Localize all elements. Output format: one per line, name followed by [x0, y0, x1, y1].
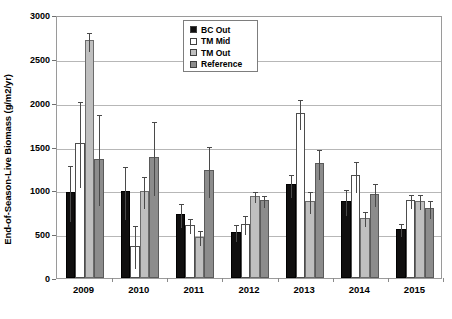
error-bar — [154, 122, 155, 196]
error-bar — [181, 204, 182, 228]
error-bar-cap — [188, 219, 193, 220]
error-bar-cap — [262, 196, 267, 197]
y-axis-title: End-of-Season-Live Biomass (g/m2/yr) — [0, 0, 16, 319]
bar-2013-tm-mid — [296, 113, 306, 278]
error-bar-cap — [87, 33, 92, 34]
error-bar-cap — [354, 162, 359, 163]
error-bar — [144, 177, 145, 209]
x-tick-mark — [388, 278, 389, 282]
error-bar-cap — [179, 204, 184, 205]
error-bar-cap — [234, 225, 239, 226]
error-bar-cap — [428, 201, 433, 202]
error-bar-cap — [289, 175, 294, 176]
error-bar-cap — [344, 190, 349, 191]
x-tick-mark — [333, 278, 334, 282]
x-tick-label-2013: 2013 — [294, 284, 315, 295]
error-bar — [209, 147, 210, 198]
legend-label: BC Out — [201, 25, 230, 35]
legend-item-tm-out: TM Out — [190, 47, 257, 59]
x-tick-label-2010: 2010 — [128, 284, 149, 295]
error-bar — [310, 192, 311, 214]
bar-2015-tm-mid — [406, 200, 416, 278]
error-bar-cap — [253, 192, 258, 193]
error-bar — [190, 219, 191, 235]
y-tick-label: 1000 — [10, 186, 50, 196]
bar-2012-reference — [260, 200, 270, 278]
error-bar-cap — [198, 231, 203, 232]
x-tick-label-2011: 2011 — [184, 284, 205, 295]
legend-label: TM Mid — [201, 36, 230, 46]
error-bar-cap — [298, 100, 303, 101]
error-bar-cap — [363, 212, 368, 213]
y-tick-label: 500 — [10, 230, 50, 240]
legend-swatch-icon — [190, 49, 197, 56]
error-bar-cap — [152, 122, 157, 123]
error-bar-cap — [317, 150, 322, 151]
legend-swatch-icon — [190, 61, 197, 68]
error-bar — [264, 196, 265, 208]
legend-swatch-icon — [190, 26, 197, 33]
error-bar-cap — [409, 195, 414, 196]
error-bar — [125, 167, 126, 220]
legend-label: Reference — [201, 59, 242, 69]
error-bar — [375, 184, 376, 207]
gridline — [57, 149, 441, 150]
biomass-bar-chart: End-of-Season-Live Biomass (g/m2/yr) 050… — [0, 0, 452, 319]
error-bar-cap — [97, 115, 102, 116]
y-tick-mark — [52, 16, 56, 17]
error-bar-cap — [308, 192, 313, 193]
x-tick-label-2009: 2009 — [73, 284, 94, 295]
error-bar-cap — [207, 147, 212, 148]
bar-2012-tm-out — [250, 196, 260, 278]
error-bar — [245, 216, 246, 235]
error-bar — [89, 33, 90, 51]
error-bar — [236, 225, 237, 242]
error-bar — [200, 231, 201, 246]
error-bar — [99, 115, 100, 206]
chart-legend: BC OutTM MidTM OutReference — [183, 20, 258, 72]
error-bar-cap — [78, 102, 83, 103]
error-bar-cap — [133, 226, 138, 227]
error-bar — [411, 195, 412, 210]
error-bar-cap — [243, 216, 248, 217]
error-bar — [255, 192, 256, 203]
bar-2009-tm-out — [85, 40, 95, 278]
error-bar — [70, 166, 71, 222]
error-bar-cap — [399, 224, 404, 225]
error-bar — [401, 224, 402, 237]
error-bar-cap — [68, 166, 73, 167]
error-bar — [300, 100, 301, 130]
x-tick-label-2015: 2015 — [404, 284, 425, 295]
error-bar — [291, 175, 292, 198]
x-tick-label-2012: 2012 — [238, 284, 259, 295]
x-tick-mark — [167, 278, 168, 282]
y-tick-mark — [52, 104, 56, 105]
x-tick-mark — [112, 278, 113, 282]
error-bar — [346, 190, 347, 216]
legend-item-tm-mid: TM Mid — [190, 36, 257, 48]
legend-label: TM Out — [201, 48, 230, 58]
error-bar — [319, 150, 320, 180]
error-bar — [356, 162, 357, 193]
y-tick-label: 2500 — [10, 55, 50, 65]
error-bar — [135, 226, 136, 270]
error-bar — [80, 102, 81, 188]
x-tick-mark — [278, 278, 279, 282]
error-bar-cap — [123, 167, 128, 168]
y-tick-mark — [52, 148, 56, 149]
y-tick-mark — [52, 235, 56, 236]
y-tick-label: 3000 — [10, 11, 50, 21]
y-tick-mark — [52, 60, 56, 61]
legend-swatch-icon — [190, 38, 197, 45]
legend-item-bc-out: BC Out — [190, 24, 257, 36]
bar-2013-bc-out — [286, 184, 296, 278]
gridline — [57, 192, 441, 193]
gridline — [57, 105, 441, 106]
legend-item-reference: Reference — [190, 59, 257, 71]
y-tick-label: 2000 — [10, 99, 50, 109]
error-bar-cap — [142, 177, 147, 178]
y-tick-label: 1500 — [10, 143, 50, 153]
error-bar — [430, 201, 431, 219]
bar-2015-tm-out — [415, 201, 425, 278]
error-bar — [365, 212, 366, 228]
